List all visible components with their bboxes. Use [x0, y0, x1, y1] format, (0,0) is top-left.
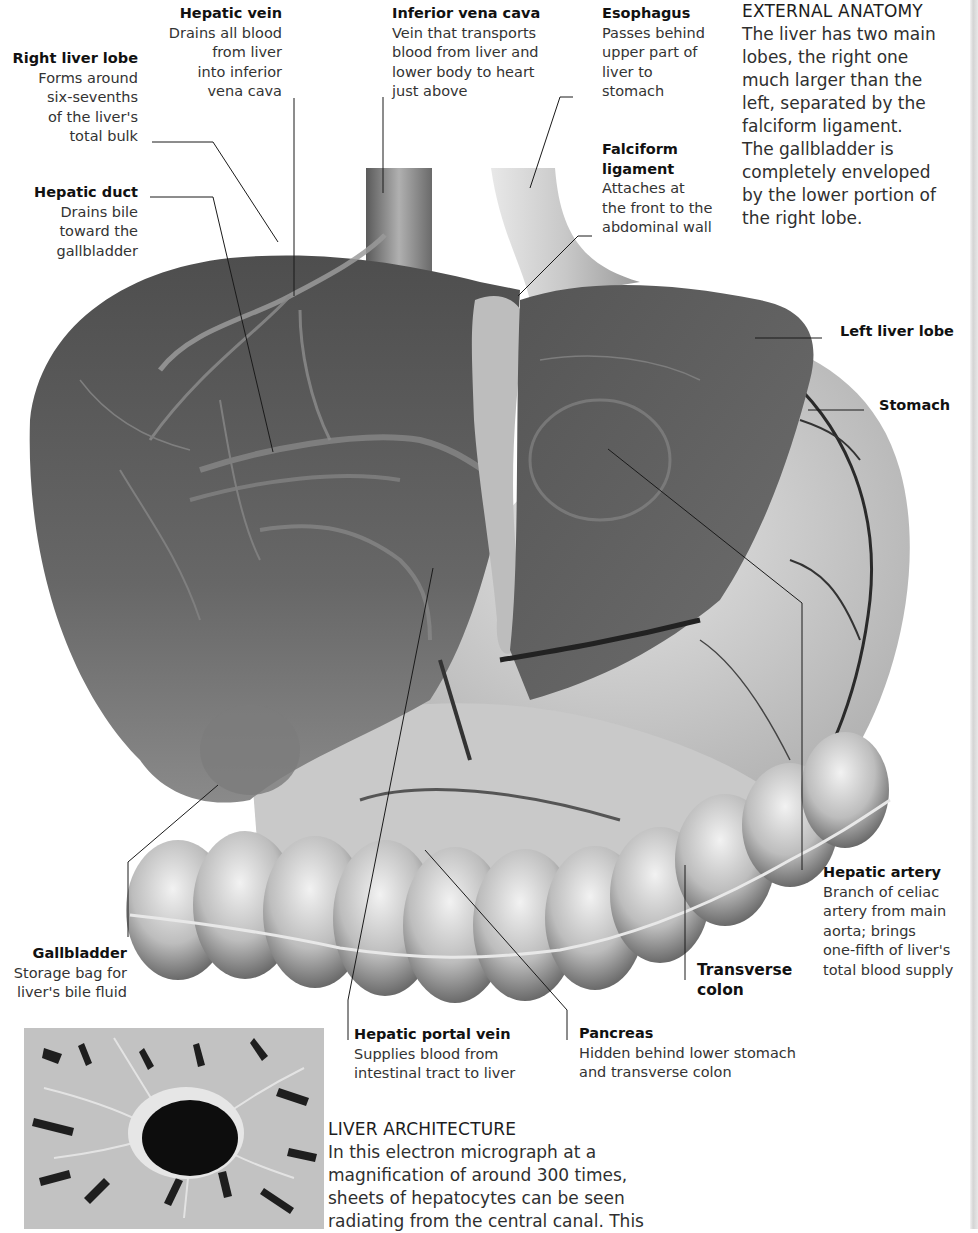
label-hepatic-duct: Hepatic duct Drains bile toward the gall…	[0, 183, 138, 261]
label-title: Inferior vena cava	[392, 4, 582, 24]
label-title: Hepatic vein	[150, 4, 282, 24]
label-inferior-vena-cava: Inferior vena cava Vein that transports …	[392, 4, 582, 102]
label-gallbladder: Gallbladder Storage bag for liver's bile…	[0, 944, 127, 1003]
label-title: Transverse colon	[697, 960, 807, 1000]
liver-architecture-section: LIVER ARCHITECTURE In this electron micr…	[328, 1118, 648, 1233]
label-title: Pancreas	[579, 1024, 829, 1044]
label-title: Falciform ligament	[602, 140, 732, 179]
section-heading: LIVER ARCHITECTURE	[328, 1118, 648, 1141]
section-body: In this electron micrograph at a magnifi…	[328, 1141, 648, 1233]
micrograph-image	[24, 1028, 324, 1229]
label-falciform-ligament: Falciform ligament Attaches at the front…	[602, 140, 732, 238]
label-stomach: Stomach	[879, 396, 969, 416]
label-title: Stomach	[879, 396, 969, 416]
gallbladder-shape	[200, 705, 300, 795]
label-title: Esophagus	[602, 4, 722, 24]
section-body: The liver has two main lobes, the right …	[742, 23, 970, 230]
label-title: Gallbladder	[0, 944, 127, 964]
label-description: Hidden behind lower stomach and transver…	[579, 1044, 829, 1083]
label-left-liver-lobe: Left liver lobe	[840, 322, 970, 342]
inferior-vena-cava-shape	[366, 168, 432, 278]
label-transverse-colon: Transverse colon	[697, 960, 807, 1000]
label-description: Passes behind upper part of liver to sto…	[602, 24, 722, 102]
label-title: Hepatic portal vein	[354, 1025, 554, 1045]
label-description: Storage bag for liver's bile fluid	[0, 964, 127, 1003]
label-title: Left liver lobe	[840, 322, 970, 342]
label-description: Forms around six-sevenths of the liver's…	[0, 69, 138, 147]
label-hepatic-vein: Hepatic vein Drains all blood from liver…	[150, 4, 282, 102]
label-right-liver-lobe: Right liver lobe Forms around six-sevent…	[0, 49, 138, 147]
label-pancreas: Pancreas Hidden behind lower stomach and…	[579, 1024, 829, 1083]
label-description: Supplies blood from intestinal tract to …	[354, 1045, 554, 1084]
label-title: Right liver lobe	[0, 49, 138, 69]
section-heading: EXTERNAL ANATOMY	[742, 0, 970, 23]
external-anatomy-section: EXTERNAL ANATOMY The liver has two main …	[742, 0, 970, 230]
label-description: Drains bile toward the gallbladder	[0, 203, 138, 262]
liver-electron-micrograph	[24, 1028, 324, 1229]
label-description: Branch of celiac artery from main aorta;…	[823, 883, 971, 981]
label-description: Vein that transports blood from liver an…	[392, 24, 582, 102]
label-description: Drains all blood from liver into inferio…	[150, 24, 282, 102]
label-description: Attaches at the front to the abdominal w…	[602, 179, 732, 238]
label-title: Hepatic artery	[823, 863, 971, 883]
label-hepatic-portal-vein: Hepatic portal vein Supplies blood from …	[354, 1025, 554, 1084]
label-title: Hepatic duct	[0, 183, 138, 203]
label-hepatic-artery: Hepatic artery Branch of celiac artery f…	[823, 863, 971, 980]
label-esophagus: Esophagus Passes behind upper part of li…	[602, 4, 722, 102]
